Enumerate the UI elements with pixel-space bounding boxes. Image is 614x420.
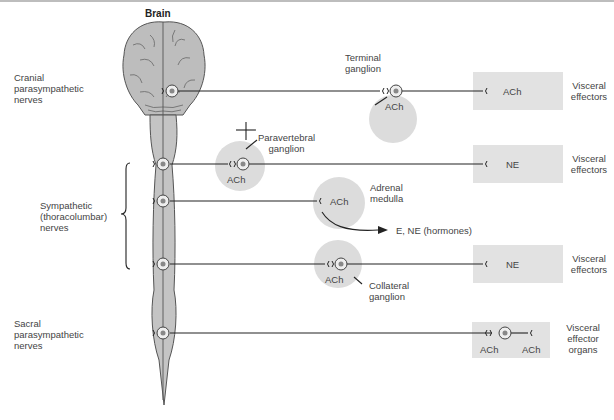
ach-paravertebral: ACh: [227, 174, 245, 185]
effector-nt-4: NE: [506, 259, 519, 270]
effector-nt-2: NE: [506, 159, 519, 170]
sympathetic-label: Sympathetic (thoracolumbar) nerves: [40, 200, 107, 233]
brain-label: Brain: [145, 8, 171, 19]
label-line: Visceral: [558, 322, 608, 333]
label-line: ganglion: [345, 63, 381, 74]
label-line: Adrenal: [370, 182, 403, 193]
ach-terminal: ACh: [385, 101, 403, 112]
label-line: ganglion: [369, 291, 409, 302]
label-line: nerves: [14, 340, 84, 351]
ach-adrenal: ACh: [330, 196, 348, 207]
ach-collateral: ACh: [325, 274, 343, 285]
label-line: effectors: [566, 264, 612, 275]
label-line: Visceral: [566, 80, 612, 91]
effector-nt-5-right: ACh: [522, 344, 540, 355]
label-line: ganglion: [258, 143, 315, 154]
label-line: nerves: [14, 94, 84, 105]
adrenal-medulla-label: Adrenal medulla: [370, 182, 403, 204]
label-line: parasympathetic: [14, 329, 84, 340]
label-line: effectors: [566, 91, 612, 102]
label-line: Terminal: [345, 52, 381, 63]
label-line: Visceral: [566, 153, 612, 164]
label-line: parasympathetic: [14, 83, 84, 94]
collateral-ganglion-label: Collateral ganglion: [369, 280, 409, 302]
label-line: Visceral: [566, 253, 612, 264]
label-line: Collateral: [369, 280, 409, 291]
label-line: organs: [558, 344, 608, 355]
effector-label-5: Visceral effector organs: [558, 322, 608, 355]
label-line: medulla: [370, 193, 403, 204]
effector-label-4: Visceral effectors: [566, 253, 612, 275]
hormones-label: E, NE (hormones): [396, 225, 472, 236]
label-line: nerves: [40, 222, 107, 233]
label-line: effector: [558, 333, 608, 344]
brain-icon: [123, 22, 205, 115]
effector-label-1: Visceral effectors: [566, 80, 612, 102]
effector-nt-1: ACh: [503, 86, 521, 97]
label-line: Sacral: [14, 318, 84, 329]
label-line: Sympathetic: [40, 200, 107, 211]
label-line: Cranial: [14, 72, 84, 83]
effector-nt-5-left: ACh: [480, 344, 498, 355]
label-line: Paravertebral: [258, 132, 315, 143]
label-line: effectors: [566, 164, 612, 175]
effector-label-2: Visceral effectors: [566, 153, 612, 175]
cranial-label: Cranial parasympathetic nerves: [14, 72, 84, 105]
sacral-label: Sacral parasympathetic nerves: [14, 318, 84, 351]
terminal-ganglion-label: Terminal ganglion: [345, 52, 381, 74]
paravertebral-ganglion-label: Paravertebral ganglion: [258, 132, 315, 154]
label-line: (thoracolumbar): [40, 211, 107, 222]
